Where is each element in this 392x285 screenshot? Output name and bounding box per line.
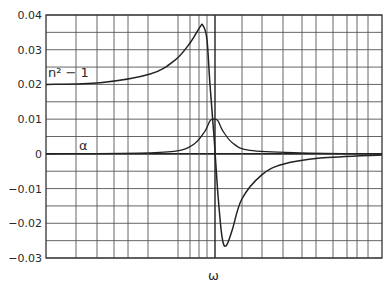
svg-text:0.03: 0.03 [18, 44, 43, 57]
alpha-curve-label: α [79, 138, 88, 153]
x-axis-label: ω [208, 268, 219, 283]
svg-text:0.04: 0.04 [18, 9, 43, 22]
n-curve-label: n² − 1 [48, 65, 89, 80]
svg-text:0.01: 0.01 [18, 113, 43, 126]
svg-text:0: 0 [35, 148, 42, 161]
y-axis-tick-labels: 0.040.030.020.010−0.01−0.02−0.03 [8, 9, 42, 265]
refractive-index-curve [46, 24, 382, 246]
dispersion-chart: 0.040.030.020.010−0.01−0.02−0.03 n² − 1 … [0, 0, 392, 285]
svg-text:−0.01: −0.01 [8, 183, 42, 196]
svg-text:−0.02: −0.02 [8, 217, 42, 230]
svg-text:−0.03: −0.03 [8, 252, 42, 265]
svg-text:0.02: 0.02 [18, 78, 43, 91]
